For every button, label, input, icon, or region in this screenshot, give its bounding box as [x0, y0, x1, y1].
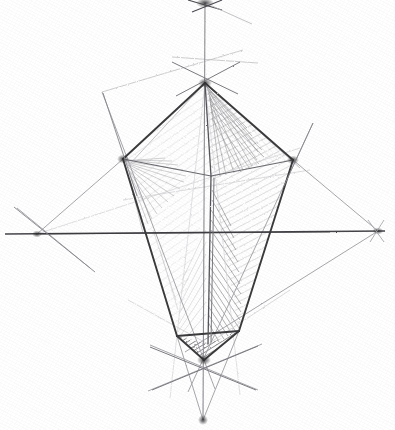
node-left-vanishing-point: [32, 231, 42, 238]
node-left-vertex: [117, 155, 129, 164]
sketch-canvas: [0, 0, 395, 430]
node-bottom-apex: [197, 355, 211, 365]
pencil-sketch-drawing: [0, 0, 395, 430]
node-lower-vanishing-point: [198, 415, 208, 425]
